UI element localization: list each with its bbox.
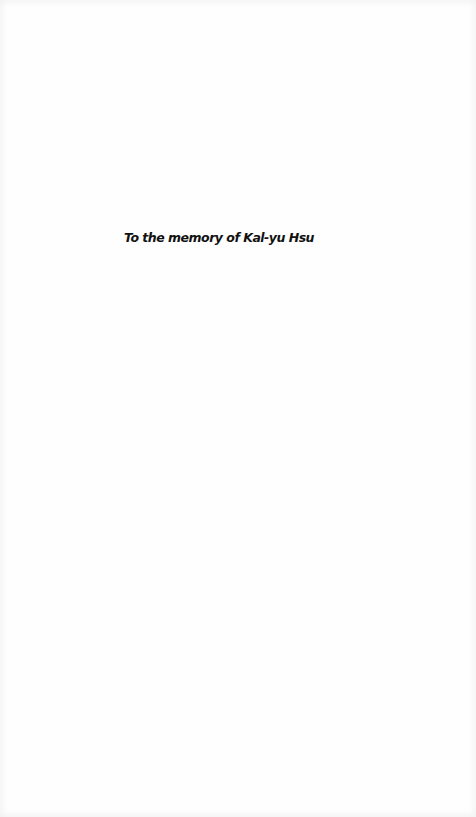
dedication-text: To the memory of Kal-yu Hsu: [124, 230, 314, 245]
book-page: To the memory of Kal-yu Hsu: [0, 0, 476, 817]
